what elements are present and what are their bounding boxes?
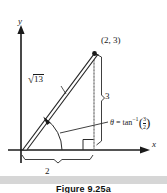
- opposite-side-label: 3: [105, 92, 110, 101]
- x-axis-arrowhead: [140, 146, 150, 153]
- theta-symbol: θ: [110, 118, 114, 127]
- equals-sign: =: [116, 118, 121, 127]
- hypotenuse-bar: [23, 55, 98, 150]
- hypotenuse-label: √13: [28, 74, 44, 85]
- adjacent-side-label: 2: [45, 167, 50, 176]
- y-axis-arrowhead: [17, 25, 24, 34]
- adjacent-measure-brace: [22, 155, 93, 163]
- right-angle-marker: [83, 140, 94, 151]
- caption-separator-band: [0, 176, 167, 184]
- figure-container: y x (2, 3) 3 2 √13 θ=tan−1(32) Figure 9.…: [0, 0, 167, 193]
- triangle-diagram: [0, 0, 167, 193]
- radicand-value: 13: [33, 74, 44, 84]
- x-axis-label: x: [152, 140, 156, 149]
- opposite-measure-bracket: [97, 55, 105, 146]
- paren-close: ): [146, 115, 150, 130]
- angle-equation-label: θ=tan−1(32): [110, 116, 150, 130]
- y-axis-label: y: [18, 17, 22, 26]
- theta-leader-line: [60, 122, 108, 133]
- point-marker: [92, 51, 97, 56]
- tangent-function-name: tan: [122, 118, 132, 127]
- figure-caption: Figure 9.25a: [0, 184, 167, 193]
- point-coordinate-label: (2, 3): [101, 36, 121, 45]
- sqrt-leader-tick: [61, 86, 66, 94]
